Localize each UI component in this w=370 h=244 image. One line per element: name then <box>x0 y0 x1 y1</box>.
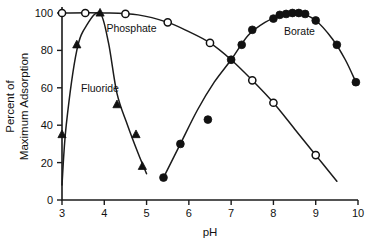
series-labels: FluoridePhosphateBorate <box>81 22 315 94</box>
datapoint-phosphate <box>122 10 129 17</box>
datapoint-fluoride <box>138 162 146 170</box>
datapoint-phosphate <box>312 152 319 159</box>
datapoint-borate <box>312 17 320 25</box>
x-tick-label: 7 <box>228 207 234 219</box>
curve-fluoride <box>62 12 147 185</box>
datapoint-phosphate <box>164 19 171 26</box>
x-tick-label: 8 <box>270 207 276 219</box>
datapoint-phosphate <box>270 99 277 106</box>
x-tick-label: 6 <box>186 207 192 219</box>
x-tick-label: 10 <box>352 207 364 219</box>
datapoint-borate <box>333 41 341 49</box>
y-tick-label: 0 <box>47 194 53 206</box>
datapoint-fluoride <box>132 130 140 138</box>
series-curves <box>62 12 356 185</box>
x-axis-title: pH <box>203 226 218 238</box>
y-tick-label: 80 <box>41 44 53 56</box>
series-label-borate: Borate <box>284 25 315 37</box>
y-axis-title: Percent ofMaximum Adsorption <box>4 53 30 160</box>
y-axis-title-line2: Maximum Adsorption <box>18 53 30 160</box>
x-tick-label: 5 <box>144 207 150 219</box>
axes: 345678910020406080100 <box>35 7 364 219</box>
datapoint-borate <box>227 56 235 64</box>
x-tick-label: 9 <box>313 207 319 219</box>
curve-borate <box>163 13 355 178</box>
series-label-phosphate: Phosphate <box>106 22 156 34</box>
y-axis-title-line1: Percent of <box>4 79 16 132</box>
datapoint-phosphate <box>249 77 256 84</box>
adsorption-ph-chart: 345678910020406080100 FluoridePhosphateB… <box>0 0 370 244</box>
datapoint-borate <box>160 174 168 182</box>
datapoint-borate <box>248 26 256 34</box>
x-tick-label: 3 <box>59 207 65 219</box>
datapoint-borate <box>177 140 185 148</box>
y-tick-label: 60 <box>41 82 53 94</box>
datapoint-phosphate <box>58 9 65 16</box>
datapoint-phosphate <box>82 9 89 16</box>
datapoint-borate <box>352 78 360 86</box>
datapoint-borate <box>238 41 246 49</box>
datapoint-borate <box>301 10 309 18</box>
datapoint-phosphate <box>206 39 213 46</box>
series-label-fluoride: Fluoride <box>81 82 119 94</box>
y-tick-label: 40 <box>41 119 53 131</box>
y-tick-label: 20 <box>41 157 53 169</box>
x-tick-label: 4 <box>101 207 107 219</box>
y-tick-label: 100 <box>35 7 53 19</box>
curve-phosphate <box>62 13 337 181</box>
chart-svg: 345678910020406080100 FluoridePhosphateB… <box>0 0 370 244</box>
datapoint-borate <box>204 116 212 124</box>
